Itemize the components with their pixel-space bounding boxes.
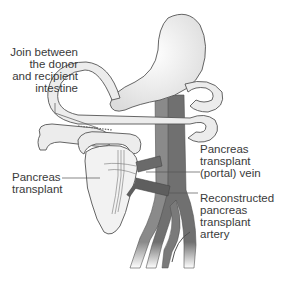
label-reconstructed-artery: Reconstructed pancreas transplant artery — [200, 192, 282, 240]
stomach — [110, 14, 206, 111]
label-join-intestine: Join between the donor and recipient int… — [6, 46, 78, 94]
label-portal-vein: Pancreas transplant (portal) vein — [200, 143, 280, 179]
label-pancreas-transplant: Pancreas transplant — [12, 171, 72, 195]
